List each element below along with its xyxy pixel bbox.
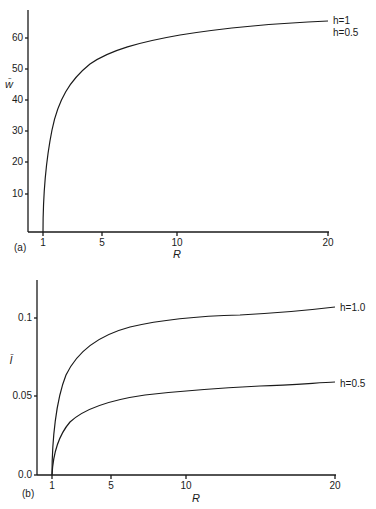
y-tick-label: 10	[12, 188, 24, 199]
y-ticks-b: 0.1 0.05 0.0	[13, 312, 37, 480]
y-tick-label: 0.1	[18, 312, 32, 323]
curve-h05	[52, 382, 335, 475]
y-axis-label-b: l̄	[10, 354, 14, 366]
x-tick-label: 10	[171, 237, 183, 248]
x-tick-label: 10	[180, 480, 192, 491]
x-axis-label-b: R	[192, 492, 200, 504]
x-tick-label: 1	[40, 237, 46, 248]
legend-h05: h=0.5	[333, 27, 359, 38]
y-tick-label: 60	[12, 32, 24, 43]
curve-a	[43, 21, 328, 232]
y-tick-label: 0.05	[13, 390, 33, 401]
y-tick-label: 50	[12, 63, 24, 74]
legend-h1: h=1.0	[340, 302, 366, 313]
y-tick-label: 0.0	[18, 469, 32, 480]
figure: 60 50 40 30 20 10 1 5 10 20 R w̄ (a) h=1…	[0, 0, 376, 509]
panel-a: 60 50 40 30 20 10 1 5 10 20 R w̄ (a) h=1…	[5, 10, 359, 260]
x-tick-label: 20	[329, 480, 341, 491]
x-ticks-b: 1 5 10 20	[49, 475, 341, 491]
y-tick-label: 30	[12, 125, 24, 136]
x-tick-label: 20	[322, 237, 334, 248]
y-tick-label: 20	[12, 156, 24, 167]
x-tick-label: 1	[49, 480, 55, 491]
x-tick-label: 5	[108, 480, 114, 491]
y-axis-label-a: w̄	[5, 78, 14, 90]
legend-h1: h=1	[333, 15, 350, 26]
x-tick-label: 5	[99, 237, 105, 248]
panel-label-a: (a)	[14, 242, 26, 253]
curve-h1	[52, 307, 335, 475]
legend-h05: h=0.5	[340, 378, 366, 389]
x-ticks-a: 1 5 10 20	[40, 232, 334, 248]
panel-label-b: (b)	[22, 488, 34, 499]
y-ticks-a: 60 50 40 30 20 10	[12, 32, 28, 199]
panel-b: 0.1 0.05 0.0 1 5 10 20 R l̄ (b) h=1.0 h=…	[10, 280, 366, 504]
y-tick-label: 40	[12, 94, 24, 105]
x-axis-label-a: R	[173, 248, 181, 260]
